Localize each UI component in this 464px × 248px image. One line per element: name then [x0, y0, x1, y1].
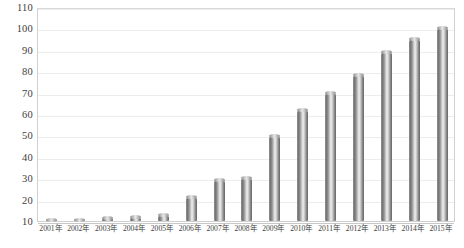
bar-slot	[261, 9, 289, 221]
plot-area	[37, 8, 455, 222]
bar-slot	[428, 9, 456, 221]
y-axis-tick-label: 10	[0, 217, 33, 227]
bar	[325, 93, 336, 221]
x-axis-tick-label: 2012年	[344, 224, 372, 234]
x-axis-tick-label: 2010年	[288, 224, 316, 234]
x-axis-tick-label: 2004年	[121, 224, 149, 234]
bar-top-cap	[130, 215, 141, 219]
bar-slot	[372, 9, 400, 221]
bar	[74, 220, 85, 222]
y-axis-tick-label: 30	[0, 174, 33, 184]
bar	[46, 220, 57, 222]
bar-slot	[94, 9, 122, 221]
bar-top-cap	[46, 218, 57, 222]
y-axis-tick-label: 110	[0, 3, 33, 13]
y-axis-tick-label: 70	[0, 89, 33, 99]
bar	[297, 110, 308, 221]
x-axis-tick-label: 2009年	[260, 224, 288, 234]
bar-slot	[205, 9, 233, 221]
y-axis-tick-label: 100	[0, 24, 33, 34]
x-axis-tick-label: 2013年	[371, 224, 399, 234]
bar-top-cap	[102, 216, 113, 220]
bar	[186, 197, 197, 221]
x-axis-tick-label: 2008年	[232, 224, 260, 234]
bar-top-cap	[437, 26, 448, 30]
y-axis-tick-label: 40	[0, 153, 33, 163]
bar-top-cap	[269, 134, 280, 138]
x-axis-tick-label: 2007年	[204, 224, 232, 234]
x-axis-tick-label: 2001年	[37, 224, 65, 234]
bar-top-cap	[297, 108, 308, 112]
bar-slot	[38, 9, 66, 221]
x-axis-tick-label: 2005年	[148, 224, 176, 234]
x-axis-tick-label: 2006年	[176, 224, 204, 234]
bar	[269, 136, 280, 221]
x-axis-tick-label: 2014年	[399, 224, 427, 234]
bar	[437, 28, 448, 221]
x-axis-tick-label: 2015年	[427, 224, 455, 234]
bar-slot	[66, 9, 94, 221]
bar-slot	[122, 9, 150, 221]
bar-top-cap	[186, 195, 197, 199]
bar-slot	[177, 9, 205, 221]
bar-chart: 110100908070605040302010 2001年2002年2003年…	[0, 0, 464, 248]
bar-slot	[149, 9, 177, 221]
bar-slot	[345, 9, 373, 221]
y-axis-tick-label: 80	[0, 67, 33, 77]
bar-slot	[233, 9, 261, 221]
x-axis-tick-label: 2011年	[316, 224, 344, 234]
bar-top-cap	[74, 218, 85, 222]
y-axis-tick-label: 50	[0, 131, 33, 141]
bar-series	[38, 9, 454, 221]
bar	[214, 180, 225, 221]
bar	[353, 75, 364, 221]
x-axis: 2001年2002年2003年2004年2005年2006年2007年2008年…	[37, 224, 455, 246]
bar-slot	[400, 9, 428, 221]
x-axis-tick-label: 2002年	[65, 224, 93, 234]
y-axis: 110100908070605040302010	[0, 0, 33, 248]
y-axis-tick-label: 20	[0, 196, 33, 206]
bar-top-cap	[353, 73, 364, 77]
bar-slot	[289, 9, 317, 221]
bar-top-cap	[158, 213, 169, 217]
x-axis-tick-label: 2003年	[93, 224, 121, 234]
bar-top-cap	[325, 91, 336, 95]
bar-top-cap	[241, 176, 252, 180]
bar	[381, 52, 392, 221]
y-axis-tick-label: 90	[0, 46, 33, 56]
bar-top-cap	[381, 50, 392, 54]
bar-slot	[317, 9, 345, 221]
bar	[130, 217, 141, 221]
bar	[241, 178, 252, 221]
y-axis-tick-label: 60	[0, 110, 33, 120]
bar	[102, 218, 113, 221]
bar-top-cap	[409, 37, 420, 41]
bar	[158, 215, 169, 221]
bar-top-cap	[214, 178, 225, 182]
bar	[409, 39, 420, 221]
